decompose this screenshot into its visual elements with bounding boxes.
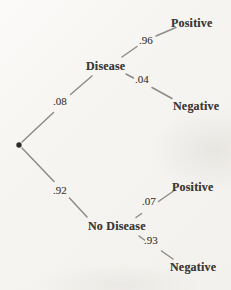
branch-root-disease	[22, 113, 54, 143]
branch-root-no-disease	[22, 148, 54, 182]
probability-disease: .08	[53, 95, 67, 107]
branch-no-disease-positive	[136, 214, 142, 218]
branch-disease-positive	[122, 47, 137, 58]
node-no-disease: No Disease	[88, 219, 146, 234]
tree-branch-lines	[0, 0, 231, 290]
leaf-negative-disease: Negative	[173, 99, 219, 114]
probability-negative-given-disease: .04	[135, 73, 149, 85]
probability-negative-given-no-disease: .93	[144, 234, 158, 246]
tree-diagram: .08 .92 Disease No Disease .96 .04 .07 .…	[0, 0, 231, 290]
branch-disease-negative-lower	[152, 88, 172, 99]
branch-root-disease-upper	[71, 76, 93, 95]
leaf-positive-disease: Positive	[171, 16, 213, 31]
node-disease: Disease	[86, 59, 125, 74]
probability-positive-given-disease: .96	[139, 34, 153, 46]
branch-disease-negative	[126, 74, 134, 78]
leaf-positive-no-disease: Positive	[172, 180, 214, 195]
probability-no-disease: .92	[53, 184, 67, 196]
root-node-dot	[16, 142, 21, 147]
leaf-negative-no-disease: Negative	[170, 260, 216, 275]
branch-root-no-disease-lower	[70, 198, 88, 217]
branch-no-disease-negative-lower	[162, 251, 174, 259]
probability-positive-given-no-disease: .07	[142, 195, 156, 207]
